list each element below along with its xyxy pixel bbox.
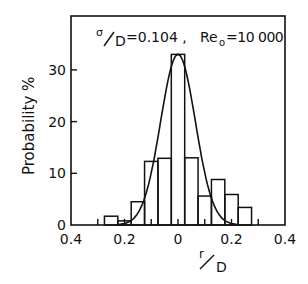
annotation: σ D =0.104 , Re o =10 000: [96, 26, 283, 49]
x-label-denominator: D: [216, 259, 227, 275]
x-axis-label: r D: [199, 247, 227, 275]
plot-frame: [71, 16, 285, 225]
histogram-bar: [104, 216, 117, 225]
fraction-slash: [104, 32, 114, 46]
x-tick-label: 0: [174, 231, 183, 247]
y-tick-label: 0: [57, 217, 66, 233]
x-tick-label: 0.4: [60, 231, 82, 247]
y-tick-label: 30: [48, 62, 66, 78]
x-axis-ticks: 0.40.200.20.4: [60, 219, 296, 247]
histogram-bar: [158, 158, 171, 225]
sigma-value: =0.104 ,: [126, 29, 187, 45]
y-tick-label: 10: [48, 165, 66, 181]
re-subscript: o: [219, 37, 225, 48]
histogram-bar: [171, 54, 184, 225]
y-axis-label: Probability %: [20, 77, 38, 175]
histogram-bar: [185, 158, 198, 225]
sigma-symbol: σ: [96, 26, 103, 39]
x-tick-label: 0.4: [274, 231, 296, 247]
re-value: =10 000: [226, 29, 283, 45]
x-label-numerator: r: [199, 247, 204, 261]
x-tick-label: 0.2: [113, 231, 135, 247]
histogram-bars: [104, 54, 251, 225]
y-axis-ticks: 0102030: [48, 62, 77, 233]
x-tick-label: 0.2: [220, 231, 242, 247]
gaussian-fit-curve: [119, 54, 237, 224]
y-tick-label: 20: [48, 114, 66, 130]
sigma-denominator: D: [115, 33, 126, 49]
histogram-chart: 0.40.200.20.4 0102030 σ D =0.104 , Re o …: [0, 0, 308, 284]
re-label: Re: [200, 29, 218, 45]
histogram-bar: [238, 207, 251, 225]
